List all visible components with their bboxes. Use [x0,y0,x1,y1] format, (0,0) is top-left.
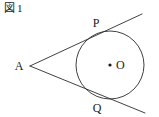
point-label-o: O [116,58,125,72]
circle-center-dot-icon [108,63,111,66]
geometry-diagram: A P Q O [0,0,159,117]
tangent-line-upper [30,14,142,66]
tangent-line-lower [30,66,145,113]
point-label-a: A [15,59,24,73]
figure-container: 図1 A P Q O [0,0,159,117]
point-label-p: P [93,16,100,30]
point-label-q: Q [93,101,102,115]
